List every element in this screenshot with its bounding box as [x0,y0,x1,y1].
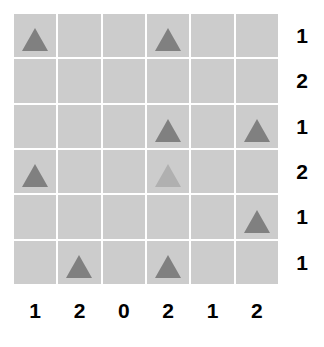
column-label-row: 120212 [14,288,278,333]
triangle-icon [155,119,181,142]
triangle-icon [244,119,270,142]
row-count-label: 2 [282,150,322,193]
grid-cell[interactable] [236,241,278,284]
grid-cell[interactable] [147,105,189,148]
grid-cell[interactable] [191,59,233,102]
row-count-label: 2 [282,59,322,102]
puzzle-grid-figure: 121211 120212 [0,0,324,347]
grid-cell[interactable] [191,241,233,284]
grid-cell[interactable] [147,59,189,102]
column-count-label: 2 [147,288,189,333]
triangle-icon [66,255,92,278]
column-count-label: 2 [58,288,100,333]
grid-cell[interactable] [103,195,145,238]
column-count-label: 2 [236,288,278,333]
row-label-column: 121211 [282,14,322,284]
grid-cell[interactable] [103,105,145,148]
grid [14,14,278,284]
grid-cell[interactable] [103,14,145,57]
grid-cell[interactable] [236,150,278,193]
grid-cell[interactable] [58,59,100,102]
grid-cell[interactable] [14,14,56,57]
grid-cell[interactable] [58,105,100,148]
column-count-label: 1 [14,288,56,333]
column-count-label: 1 [191,288,233,333]
grid-cell[interactable] [58,14,100,57]
grid-cell[interactable] [147,14,189,57]
grid-cell[interactable] [236,14,278,57]
grid-cell[interactable] [191,105,233,148]
grid-cell[interactable] [191,14,233,57]
grid-cell[interactable] [147,150,189,193]
grid-cell[interactable] [103,241,145,284]
grid-cell[interactable] [14,195,56,238]
grid-cell[interactable] [103,150,145,193]
grid-cell[interactable] [236,59,278,102]
row-count-label: 1 [282,105,322,148]
triangle-icon [155,164,181,187]
row-count-label: 1 [282,195,322,238]
row-count-label: 1 [282,14,322,57]
grid-cell[interactable] [191,195,233,238]
grid-cell[interactable] [191,150,233,193]
triangle-icon [244,210,270,233]
grid-cell[interactable] [58,195,100,238]
row-count-label: 1 [282,241,322,284]
grid-cell[interactable] [236,105,278,148]
grid-cell[interactable] [14,150,56,193]
column-count-label: 0 [103,288,145,333]
grid-cell[interactable] [147,241,189,284]
grid-cell[interactable] [14,59,56,102]
grid-cell[interactable] [58,150,100,193]
grid-cell[interactable] [236,195,278,238]
triangle-icon [22,164,48,187]
triangle-icon [22,28,48,51]
grid-cell[interactable] [103,59,145,102]
grid-cell[interactable] [14,241,56,284]
triangle-icon [155,255,181,278]
grid-cell[interactable] [147,195,189,238]
triangle-icon [155,28,181,51]
grid-cell[interactable] [58,241,100,284]
grid-cell[interactable] [14,105,56,148]
